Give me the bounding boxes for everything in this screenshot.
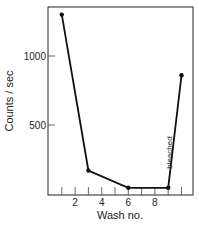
annotation-bleached: bleached [165,136,174,168]
data-point [86,168,90,172]
x-tick-label: 2 [72,197,78,208]
data-point [126,186,130,190]
x-tick-label: 6 [126,197,132,208]
y-tick-label: 1000 [24,51,47,62]
annotations: bleached [165,136,174,168]
y-axis-label: Counts / sec [3,70,15,132]
x-tick-label: 4 [99,197,105,208]
data-point [166,186,170,190]
chart: 2468 5001000 Wash no. Counts / sec bleac… [0,0,199,227]
y-tick-label: 500 [29,120,46,131]
data-point [60,12,64,16]
x-axis-label: Wash no. [97,209,143,221]
x-tick-label: 8 [152,197,158,208]
x-axis-ticks: 2468 [62,187,182,208]
y-axis-ticks: 5001000 [24,51,55,131]
data-point [179,73,183,77]
data-line [62,15,182,188]
